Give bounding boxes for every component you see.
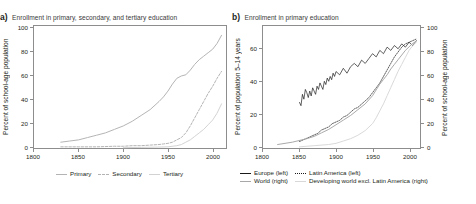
panel-a-y-axis-title: Percent of school-age population	[2, 28, 11, 146]
panel-b-xtick-1850: 1850	[287, 153, 311, 160]
panel-a-xtick-1900: 1900	[111, 153, 135, 160]
legend-swatch-world-icon	[240, 181, 251, 182]
panel-a-header: a) Enrollment in primary, secondary, and…	[0, 6, 177, 24]
panel-a-legend-row: Primary Secondary Tertiary	[56, 171, 190, 177]
legend-item-europe: Europe (left)	[240, 170, 288, 176]
panel-b-legend: Europe (left) Latin America (left) World…	[240, 170, 435, 184]
panel-a-xmark-1850	[78, 149, 79, 152]
panel-b-yrightmark-40	[421, 99, 424, 100]
panel-b-ylefttick-20: 20	[244, 111, 257, 118]
series-world-right	[278, 41, 417, 144]
series-tertiary	[123, 104, 221, 148]
panel-b-yrightmark-0	[421, 147, 424, 148]
legend-swatch-tertiary-icon	[149, 174, 160, 175]
panel-b-yrightmark-100	[421, 27, 424, 28]
legend-label-world: World (right)	[254, 178, 288, 184]
panel-a-letter: a)	[0, 12, 8, 22]
panel-b-plot-area	[262, 25, 421, 149]
panel-a-ytick-60: 60	[12, 72, 28, 79]
legend-item-world: World (right)	[240, 178, 288, 184]
panel-a-xmark-2000	[213, 149, 214, 152]
panel-b-header: b) Enrollment in primary education	[232, 6, 339, 24]
panel-a-ytick-80: 80	[12, 48, 28, 55]
panel-a-ytick-100: 100	[12, 24, 28, 31]
panel-b-xmark-1850	[299, 149, 300, 152]
panel-b-xmark-1800	[262, 149, 263, 152]
series-primary	[61, 35, 222, 142]
series-developing-world-excl-latin-america-right	[300, 42, 417, 147]
panel-b-title: Enrollment in primary education	[244, 14, 338, 21]
panel-b-yrighttick-20: 20	[427, 120, 434, 127]
legend-label-developing-world: Developing world excl. Latin America (ri…	[309, 178, 428, 184]
panel-b-yrightmark-20	[421, 123, 424, 124]
panel-b-series-group	[278, 39, 417, 147]
series-europe-left	[300, 41, 417, 106]
legend-label-tertiary: Tertiary	[163, 171, 183, 177]
panel-b-yrighttick-0: 0	[427, 144, 430, 151]
legend-label-secondary: Secondary	[112, 171, 142, 177]
legend-item-latin-america: Latin America (left)	[295, 170, 361, 176]
panel-b-xmark-1900	[336, 149, 337, 152]
panel-b-y-left-title: Percent of population 5–14 years	[234, 28, 243, 146]
panel-b-yrightmark-80	[421, 51, 424, 52]
panel-b-xtick-1800: 1800	[250, 153, 274, 160]
panel-b-ylefttick-60: 60	[244, 45, 257, 52]
panel-a-plot-area	[33, 25, 227, 149]
panel-a-title: Enrollment in primary, secondary, and te…	[12, 14, 177, 21]
legend-swatch-latin-america-icon	[295, 173, 306, 174]
panel-a-legend: Primary Secondary Tertiary	[56, 171, 190, 177]
legend-item-secondary: Secondary	[98, 171, 142, 177]
panel-a-xmark-1950	[168, 149, 169, 152]
panel-a-ytick-20: 20	[12, 120, 28, 127]
panel-a-xtick-1850: 1850	[66, 153, 90, 160]
panel-b-y-right-title: Percent of school-age population	[441, 28, 450, 148]
legend-swatch-europe-icon	[240, 173, 251, 174]
panel-a-svg	[34, 26, 226, 148]
legend-item-primary: Primary	[56, 171, 91, 177]
panel-a-xmark-1900	[123, 149, 124, 152]
legend-label-latin-america: Latin America (left)	[309, 170, 361, 176]
panel-b-legend-row-1: Europe (left) Latin America (left)	[240, 170, 435, 176]
panel-b-yrighttick-40: 40	[427, 96, 434, 103]
panel-b-xmark-1950	[373, 149, 374, 152]
panel-b-xmark-2000	[410, 149, 411, 152]
panel-a-series-group	[61, 35, 222, 147]
legend-swatch-developing-world-icon	[295, 181, 306, 182]
panel-b-yrightmark-60	[421, 75, 424, 76]
series-latin-america-left	[300, 39, 417, 141]
panel-a-xmark-1800	[33, 149, 34, 152]
panel-b-letter: b)	[232, 12, 240, 22]
figure-root: a) Enrollment in primary, secondary, and…	[0, 0, 476, 204]
panel-b-legend-row-2: World (right) Developing world excl. Lat…	[240, 178, 435, 184]
panel-a-xtick-1950: 1950	[156, 153, 180, 160]
legend-swatch-primary-icon	[56, 174, 67, 175]
panel-b-ylefttick-40: 40	[244, 78, 257, 85]
legend-swatch-secondary-icon	[98, 174, 109, 175]
panel-a-ytick-0: 0	[12, 144, 28, 151]
panel-b-xtick-2000: 2000	[398, 153, 422, 160]
series-secondary	[61, 71, 222, 147]
panel-b-yrighttick-100: 100	[427, 24, 437, 31]
panel-a-xtick-1800: 1800	[21, 153, 45, 160]
legend-item-tertiary: Tertiary	[149, 171, 183, 177]
legend-label-primary: Primary	[70, 171, 91, 177]
panel-a: a) Enrollment in primary, secondary, and…	[0, 0, 238, 204]
panel-a-ytick-40: 40	[12, 96, 28, 103]
panel-b-xtick-1900: 1900	[324, 153, 348, 160]
legend-label-europe: Europe (left)	[254, 170, 288, 176]
panel-b-yrighttick-80: 80	[427, 48, 434, 55]
panel-b-yrighttick-60: 60	[427, 72, 434, 79]
panel-b: b) Enrollment in primary education Perce…	[232, 0, 476, 204]
panel-b-xtick-1950: 1950	[361, 153, 385, 160]
panel-a-xtick-2000: 2000	[201, 153, 225, 160]
panel-b-ylefttick-0: 0	[244, 144, 257, 151]
legend-item-developing-world: Developing world excl. Latin America (ri…	[295, 178, 428, 184]
panel-b-svg	[263, 26, 420, 148]
